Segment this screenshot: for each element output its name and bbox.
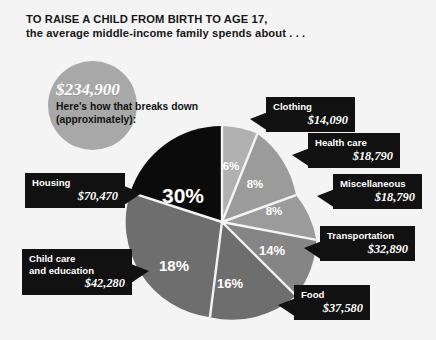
- callout-child-care-category-line-2: and education: [29, 265, 125, 277]
- callout-miscellaneous: Miscellaneous $18,790: [333, 174, 422, 209]
- callout-miscellaneous-category: Miscellaneous: [340, 178, 415, 190]
- callout-pointer-housing: [124, 186, 142, 205]
- total-amount: $234,900: [56, 80, 166, 100]
- callout-housing-amount: $70,470: [32, 189, 118, 203]
- callout-pointer-child-care: [131, 264, 149, 283]
- callout-health-care-amount: $18,790: [315, 149, 393, 163]
- callout-clothing-category: Clothing: [273, 101, 348, 113]
- callout-housing: Housing $70,470: [25, 173, 125, 208]
- page-title: TO RAISE A CHILD FROM BIRTH TO AGE 17, t…: [26, 12, 426, 41]
- breakdown-note-line-1: Here's how that breaks down: [56, 101, 246, 114]
- callout-transportation-category: Transportation: [327, 230, 408, 242]
- headline-line-2: the average middle-income family spends …: [26, 26, 426, 41]
- callout-food-category: Food: [301, 289, 363, 301]
- callout-housing-category: Housing: [32, 177, 118, 189]
- callout-miscellaneous-amount: $18,790: [340, 190, 415, 204]
- callout-transportation-amount: $32,890: [327, 242, 408, 256]
- breakdown-note: Here's how that breaks down (approximate…: [56, 101, 246, 126]
- pie-chart: 6% 8% 8% 14% 16% 18% 30%: [124, 124, 320, 320]
- callout-clothing-amount: $14,090: [273, 113, 348, 127]
- pie-chart-svg: [124, 124, 320, 320]
- callout-child-care: Child care and education $42,280: [22, 249, 132, 295]
- callout-food: Food $37,580: [294, 285, 370, 320]
- headline-line-1: TO RAISE A CHILD FROM BIRTH TO AGE 17,: [26, 12, 426, 26]
- callout-clothing: Clothing $14,090: [266, 97, 355, 132]
- infographic-root: TO RAISE A CHILD FROM BIRTH TO AGE 17, t…: [0, 0, 436, 340]
- callout-child-care-amount: $42,280: [29, 276, 125, 290]
- callout-child-care-category-line-1: Child care: [29, 253, 125, 265]
- callout-health-care: Health care $18,790: [308, 133, 400, 168]
- callout-food-amount: $37,580: [301, 301, 363, 315]
- callout-transportation: Transportation $32,890: [320, 226, 415, 261]
- callout-health-care-category: Health care: [315, 137, 393, 149]
